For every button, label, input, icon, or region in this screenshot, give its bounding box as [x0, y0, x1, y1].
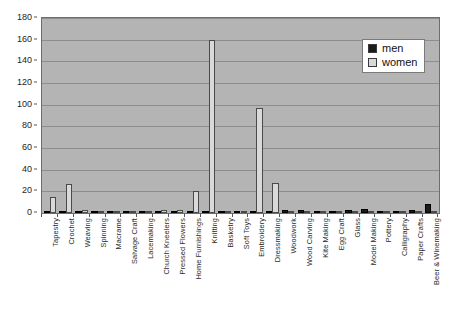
y-tick-mark	[34, 103, 37, 104]
bar-women-crochet	[66, 184, 72, 213]
x-tick-label: Weaving	[84, 218, 91, 247]
legend-swatch-men-icon	[368, 44, 377, 53]
x-tick-label: Beer & Winemaking	[433, 218, 440, 285]
x-tick-mark	[57, 214, 58, 217]
y-tick-mark	[34, 60, 37, 61]
x-tick-label: Soft Toys	[243, 218, 250, 249]
bar-women-egg-craft	[336, 211, 342, 213]
y-tick-label: 40	[22, 164, 32, 173]
bar-women-knitting	[209, 40, 215, 213]
y-tick-label: 180	[17, 13, 32, 22]
legend-label-women: women	[382, 57, 417, 68]
x-tick-label: Spinning	[100, 218, 107, 248]
x-tick-mark	[406, 214, 407, 217]
x-tick-mark	[327, 214, 328, 217]
x-tick-mark	[311, 214, 312, 217]
bar-women-soft-toys	[241, 211, 247, 213]
gridline	[42, 191, 439, 192]
bar-women-model-making	[368, 211, 374, 213]
bar-women-glass	[352, 211, 358, 213]
y-tick-mark	[34, 147, 37, 148]
legend-swatch-women-icon	[368, 58, 377, 67]
x-tick-mark	[374, 214, 375, 217]
x-tick-mark	[168, 214, 169, 217]
bar-women-salvage-craft	[129, 211, 135, 213]
bar-women-macrame	[113, 211, 119, 213]
x-tick-mark	[279, 214, 280, 217]
x-tick-mark	[200, 214, 201, 217]
x-tick-label: Church Kneelers	[163, 218, 170, 275]
x-tick-mark	[295, 214, 296, 217]
x-tick-mark	[422, 214, 423, 217]
x-tick-mark	[359, 214, 360, 217]
y-tick-label: 140	[17, 56, 32, 65]
x-tick-mark	[73, 214, 74, 217]
x-tick-label: Kite Making	[322, 218, 329, 258]
y-tick-mark	[34, 168, 37, 169]
x-tick-mark	[136, 214, 137, 217]
x-tick-mark	[390, 214, 391, 217]
gridline	[42, 148, 439, 149]
x-tick-label: Dressmaking	[274, 218, 281, 262]
chart-legend: men women	[362, 39, 425, 73]
bar-women-beer-winemaking	[431, 211, 437, 213]
x-tick-mark	[152, 214, 153, 217]
x-tick-label: Wood Carving	[306, 218, 313, 266]
bar-women-dressmaking	[272, 183, 278, 213]
x-tick-label: Glass	[354, 218, 361, 237]
x-axis: TapestryCrochetWeavingSpinningMacrameSal…	[41, 218, 440, 310]
y-tick-label: 60	[22, 143, 32, 152]
bar-women-weaving	[82, 210, 88, 213]
bar-women-tapestry	[50, 197, 56, 213]
x-tick-mark	[232, 214, 233, 217]
x-tick-label: Calligraphy	[401, 218, 408, 256]
x-tick-mark	[105, 214, 106, 217]
x-tick-mark	[343, 214, 344, 217]
legend-item-men: men	[368, 43, 417, 54]
x-tick-label: Egg Craft	[338, 218, 345, 250]
x-tick-label: Macrame	[115, 218, 122, 250]
legend-label-men: men	[382, 43, 403, 54]
bar-women-basketry	[225, 211, 231, 213]
bar-women-pressed-flowers	[177, 210, 183, 213]
y-tick-label: 0	[27, 208, 32, 217]
bar-women-pottery	[383, 211, 389, 213]
x-tick-label: Home Furnishings	[195, 218, 202, 280]
bar-women-embroidery	[256, 108, 262, 213]
x-tick-mark	[247, 214, 248, 217]
x-tick-label: Lacemaking	[147, 218, 154, 259]
y-tick-label: 120	[17, 78, 32, 87]
x-tick-mark	[89, 214, 90, 217]
x-tick-label: Tapestry	[52, 218, 59, 247]
x-tick-label: Pressed Flowers	[179, 218, 186, 275]
x-tick-mark	[41, 214, 42, 217]
bar-chart: 020406080100120140160180 TapestryCrochet…	[0, 0, 452, 310]
y-tick-mark	[34, 125, 37, 126]
x-tick-mark	[120, 214, 121, 217]
bar-women-wood-carving	[304, 211, 310, 213]
y-tick-mark	[34, 17, 37, 18]
y-tick-mark	[34, 82, 37, 83]
x-tick-mark	[184, 214, 185, 217]
bar-women-home-furnishings	[193, 191, 199, 213]
x-tick-label: Knitting	[211, 218, 218, 243]
bar-women-church-kneelers	[161, 210, 167, 213]
y-tick-label: 160	[17, 34, 32, 43]
y-tick-label: 100	[17, 99, 32, 108]
gridline	[42, 83, 439, 84]
bar-women-kite-making	[320, 211, 326, 213]
legend-item-women: women	[368, 57, 417, 68]
gridline	[42, 126, 439, 127]
y-tick-mark	[34, 190, 37, 191]
x-tick-mark	[437, 214, 438, 217]
x-tick-label: Woodwork	[290, 218, 297, 254]
x-tick-label: Salvage Craft	[131, 218, 138, 264]
x-tick-mark	[216, 214, 217, 217]
gridline	[42, 170, 439, 171]
bar-women-calligraphy	[399, 211, 405, 213]
bar-women-paper-crafts	[415, 211, 421, 213]
gridline	[42, 18, 439, 19]
x-tick-label: Embroidery	[258, 218, 265, 257]
y-tick-label: 80	[22, 121, 32, 130]
x-tick-label: Basketry	[227, 218, 234, 248]
